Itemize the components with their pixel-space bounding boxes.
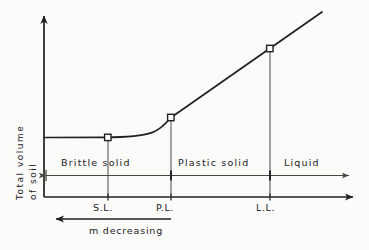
state-band [46, 170, 349, 181]
volume-curve [44, 12, 322, 138]
tick-label-shrinkage-limit: S.L. [93, 202, 113, 213]
chart-canvas [0, 0, 369, 250]
moisture-decreasing-label: m decreasing [89, 225, 163, 236]
atterberg-limits-figure: Total volume of soil Brittle solid Plast… [0, 0, 369, 250]
region-label-liquid: Liquid [284, 157, 320, 168]
y-axis-title-line2: of soil [27, 40, 40, 200]
tick-label-plastic-limit: P.L. [156, 202, 174, 213]
marker-shrinkage-limit [105, 134, 111, 140]
marker-liquid-limit [267, 45, 273, 51]
curve-markers [105, 45, 273, 140]
tick-label-liquid-limit: L.L. [256, 202, 275, 213]
region-label-plastic-solid: Plastic solid [178, 157, 249, 168]
marker-plastic-limit [168, 114, 174, 120]
y-axis-title-line1: Total volume [14, 40, 27, 200]
region-label-brittle-solid: Brittle solid [61, 157, 131, 168]
y-axis-title: Total volume of soil [14, 40, 40, 200]
